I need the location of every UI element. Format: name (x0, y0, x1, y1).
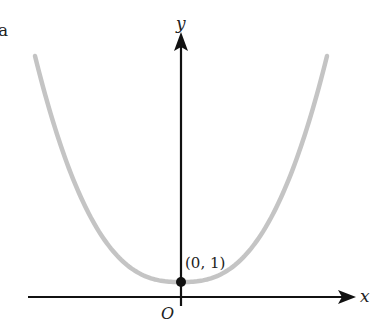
origin-label: O (161, 304, 174, 323)
panel-label: a (0, 20, 8, 40)
point-label: (0, 1) (185, 254, 225, 272)
point-marker (176, 277, 186, 287)
function-graph: y x O (0, 1) a (0, 0, 376, 335)
y-axis-label: y (175, 13, 186, 33)
x-axis-label: x (360, 286, 370, 306)
